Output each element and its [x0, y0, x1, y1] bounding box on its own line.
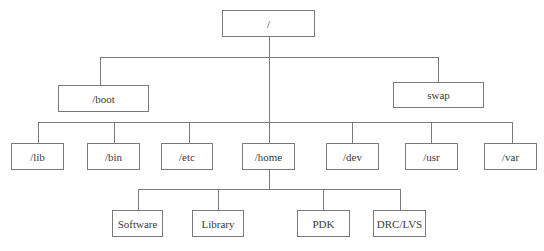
- node-lib-label: /lib: [30, 151, 45, 163]
- node-usr-label: /usr: [423, 151, 440, 163]
- filesystem-tree-diagram: / /boot swap /lib /bin /etc /home /dev /…: [0, 0, 544, 251]
- node-drclvs-label: DRC/LVS: [377, 218, 422, 230]
- node-etc-label: /etc: [179, 151, 195, 163]
- connector-swap: [438, 57, 439, 82]
- node-software: Software: [112, 210, 163, 237]
- node-etc: /etc: [161, 143, 213, 170]
- node-bin: /bin: [87, 143, 140, 170]
- node-pdk-label: PDK: [312, 218, 334, 230]
- connector-var: [512, 122, 513, 143]
- node-dev-label: /dev: [343, 151, 362, 163]
- connector-level2-bar: [38, 122, 513, 123]
- node-var: /var: [484, 143, 537, 170]
- connector-dev: [352, 122, 353, 143]
- node-home: /home: [242, 143, 295, 170]
- connector-pdk: [323, 189, 324, 210]
- node-library-label: Library: [202, 218, 235, 230]
- connector-drclvs: [400, 189, 401, 210]
- node-boot-label: /boot: [92, 93, 115, 105]
- node-swap-label: swap: [427, 89, 450, 101]
- node-lib: /lib: [11, 143, 64, 170]
- connector-boot: [100, 57, 101, 85]
- connector-etc: [189, 122, 190, 143]
- connector-software: [138, 189, 139, 210]
- connector-level3-bar: [138, 189, 401, 190]
- node-home-label: /home: [255, 151, 283, 163]
- node-library: Library: [192, 210, 244, 237]
- node-software-label: Software: [118, 218, 158, 230]
- node-swap: swap: [393, 82, 484, 108]
- connector-usr: [431, 122, 432, 143]
- connector-library: [218, 189, 219, 210]
- node-root: /: [222, 10, 315, 37]
- node-pdk: PDK: [297, 210, 350, 237]
- connector-level1-bar: [100, 57, 439, 58]
- node-dev: /dev: [326, 143, 379, 170]
- node-drclvs: DRC/LVS: [373, 210, 426, 237]
- connector-lib: [38, 122, 39, 143]
- node-var-label: /var: [502, 151, 519, 163]
- node-boot: /boot: [58, 85, 149, 112]
- connector-bin: [114, 122, 115, 143]
- node-root-label: /: [267, 18, 270, 30]
- node-usr: /usr: [405, 143, 458, 170]
- node-bin-label: /bin: [105, 151, 122, 163]
